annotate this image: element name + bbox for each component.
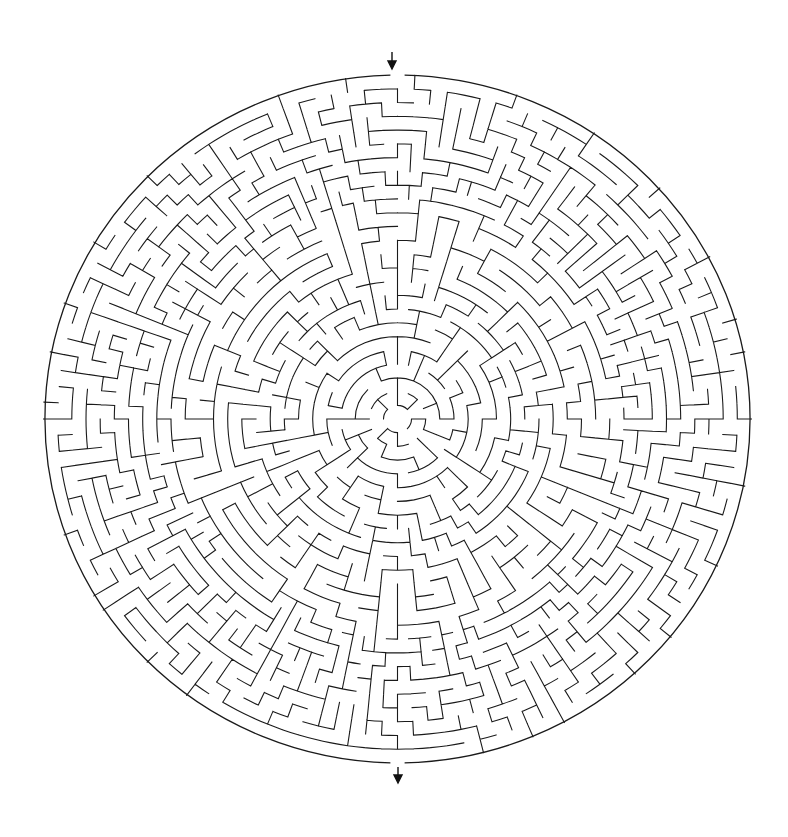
maze-walls — [44, 75, 752, 752]
entrance-arrow-icon — [388, 52, 396, 69]
circular-maze[interactable] — [0, 0, 788, 837]
exit-arrow-icon — [394, 767, 402, 783]
